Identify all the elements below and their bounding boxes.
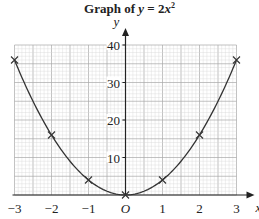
x-tick-label: −3 bbox=[8, 201, 22, 216]
x-tick-label: −1 bbox=[82, 201, 96, 216]
x-tick-label: O bbox=[121, 201, 131, 216]
y-tick-label: 40 bbox=[107, 38, 120, 53]
y-tick-label: 10 bbox=[107, 151, 120, 166]
y-axis-arrow-icon bbox=[122, 28, 129, 36]
x-axis-arrow-icon bbox=[247, 192, 255, 199]
y-tick-label: 20 bbox=[107, 113, 120, 128]
plot-area: xy−3−2−1O12310203040 bbox=[0, 0, 259, 219]
x-tick-label: −2 bbox=[45, 201, 59, 216]
x-tick-label: 1 bbox=[159, 201, 166, 216]
x-axis-label: x bbox=[255, 200, 259, 215]
y-axis-label: y bbox=[112, 14, 120, 29]
y-tick-label: 30 bbox=[107, 76, 120, 91]
x-tick-label: 3 bbox=[233, 201, 240, 216]
x-tick-label: 2 bbox=[196, 201, 203, 216]
